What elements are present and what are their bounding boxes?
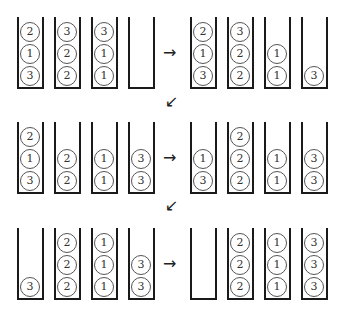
row1-left-tube-4 [128,17,155,89]
ball: 2 [57,233,77,253]
row3-left-tube-3: 111 [91,228,118,300]
ball: 3 [230,22,250,42]
row3-left-tube-1: 3 [17,228,44,300]
ball: 1 [267,66,287,86]
ball: 2 [230,255,250,275]
ball: 2 [57,171,77,191]
ball: 1 [267,255,287,275]
ball: 2 [230,127,250,147]
ball: 1 [267,171,287,191]
ball: 1 [94,277,114,297]
ball: 3 [193,171,213,191]
ball: 3 [131,149,151,169]
ball: 1 [94,171,114,191]
row3-left-tube-4: 33 [128,228,155,300]
ball: 3 [94,22,114,42]
ball: 3 [20,277,40,297]
row3-right-tube-2: 222 [227,228,254,300]
ball: 2 [57,66,77,86]
row1-right-tube-4: 3 [301,17,328,89]
row2-right-tube-1: 31 [190,122,217,194]
ball: 2 [230,44,250,64]
ball: 1 [94,44,114,64]
row1-right-tube-2: 223 [227,17,254,89]
ball: 1 [267,277,287,297]
ball: 2 [193,22,213,42]
down-left-arrow-icon: ↙ [165,92,178,111]
ball: 2 [230,66,250,86]
ball: 3 [304,66,324,86]
ball: 2 [57,277,77,297]
ball: 1 [94,233,114,253]
ball: 1 [193,44,213,64]
row1-left-tube-3: 113 [91,17,118,89]
ball: 1 [193,149,213,169]
row2-right-tube-4: 33 [301,122,328,194]
row3-right-tube-1 [190,228,217,300]
ball: 3 [131,171,151,191]
ball: 3 [304,255,324,275]
row2-left-tube-3: 11 [91,122,118,194]
row2-right-tube-3: 11 [264,122,291,194]
ball: 3 [304,277,324,297]
ball: 3 [131,277,151,297]
ball: 2 [230,149,250,169]
row3-right-tube-4: 333 [301,228,328,300]
ball: 2 [20,127,40,147]
ball: 1 [94,66,114,86]
ball: 1 [20,44,40,64]
right-arrow-icon: → [163,43,176,62]
ball: 1 [20,149,40,169]
ball: 2 [230,233,250,253]
row3-left-tube-2: 222 [54,228,81,300]
row2-left-tube-2: 22 [54,122,81,194]
row1-right-tube-3: 11 [264,17,291,89]
ball: 3 [20,171,40,191]
ball: 1 [267,44,287,64]
row1-right-tube-1: 312 [190,17,217,89]
right-arrow-icon: → [163,254,176,273]
ball: 3 [304,233,324,253]
ball: 1 [267,149,287,169]
ball: 1 [267,233,287,253]
ball: 3 [20,66,40,86]
ball: 3 [304,171,324,191]
row2-right-tube-2: 222 [227,122,254,194]
row3-right-tube-3: 111 [264,228,291,300]
ball: 3 [304,149,324,169]
ball: 3 [131,255,151,275]
row1-left-tube-1: 312 [17,17,44,89]
ball: 3 [193,66,213,86]
ball: 2 [57,255,77,275]
ball: 1 [94,149,114,169]
ball: 1 [94,255,114,275]
ball: 2 [230,171,250,191]
row1-left-tube-2: 223 [54,17,81,89]
ball: 2 [230,277,250,297]
ball: 2 [20,22,40,42]
row2-left-tube-4: 33 [128,122,155,194]
right-arrow-icon: → [163,148,176,167]
row2-left-tube-1: 312 [17,122,44,194]
down-left-arrow-icon: ↙ [165,196,178,215]
ball: 3 [57,22,77,42]
ball: 2 [57,44,77,64]
ball: 2 [57,149,77,169]
